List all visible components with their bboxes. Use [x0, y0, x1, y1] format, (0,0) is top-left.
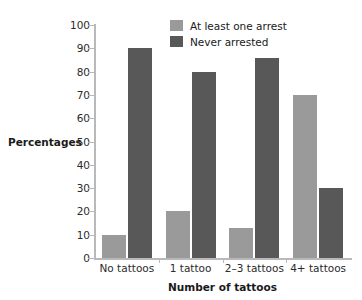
legend-item: At least one arrest	[170, 19, 287, 32]
legend-swatch-icon	[170, 36, 183, 47]
legend-label: At least one arrest	[190, 20, 287, 32]
bar	[319, 188, 343, 258]
legend-swatch-icon	[170, 20, 183, 31]
x-tick-label: 1 tattoo	[159, 262, 223, 274]
x-tick-label: 4+ tattoos	[286, 262, 350, 274]
y-tick-label: 30	[64, 183, 90, 193]
x-tick-label: 2–3 tattoos	[223, 262, 287, 274]
legend-label: Never arrested	[190, 36, 268, 48]
x-axis-title: Number of tattoos	[95, 281, 350, 293]
bar	[102, 235, 126, 258]
y-tick-label: 100	[64, 20, 90, 30]
bar-chart: Percentages 0102030405060708090100 No ta…	[0, 0, 362, 300]
y-tick-label: 60	[64, 113, 90, 123]
bar	[293, 95, 317, 258]
x-tick-label: No tattoos	[95, 262, 159, 274]
y-tick-label: 90	[64, 43, 90, 53]
bar	[255, 58, 279, 258]
plot-area	[95, 25, 350, 258]
y-tick-label: 70	[64, 90, 90, 100]
bar	[192, 72, 216, 258]
y-tick-label: 80	[64, 67, 90, 77]
bar	[128, 48, 152, 258]
y-tick-label: 0	[64, 253, 90, 263]
y-tick-label: 20	[64, 206, 90, 216]
y-axis-tick-labels: 0102030405060708090100	[60, 0, 90, 300]
bar	[166, 211, 190, 258]
chart-legend: At least one arrestNever arrested	[170, 19, 287, 51]
y-tick-label: 50	[64, 137, 90, 147]
legend-item: Never arrested	[170, 35, 287, 48]
y-tick-label: 40	[64, 160, 90, 170]
bar	[229, 228, 253, 258]
y-tick-label: 10	[64, 230, 90, 240]
